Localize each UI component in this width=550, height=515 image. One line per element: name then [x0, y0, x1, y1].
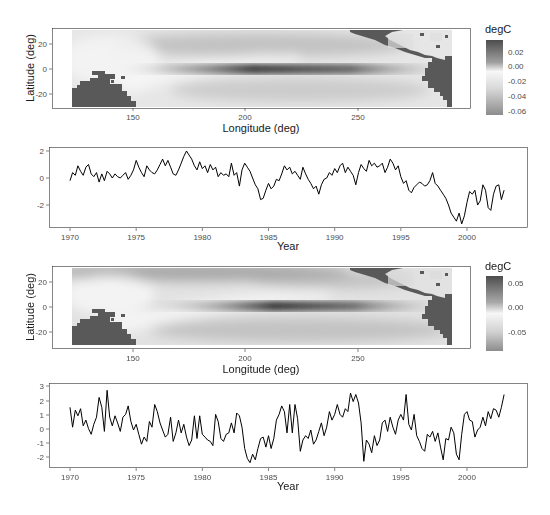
y-tick-label: 0 [43, 65, 48, 74]
y-tick-label: 0 [40, 425, 45, 434]
x-axis-title: Longitude (deg) [222, 122, 299, 134]
x-tick-label: 1990 [326, 473, 344, 482]
x-axis-title: Year [277, 480, 300, 492]
x-tick-label: 1970 [61, 473, 79, 482]
legend-colorbar [486, 40, 503, 115]
y-tick-label: -2 [37, 453, 45, 462]
y-axis-title: Latitude (deg) [24, 34, 36, 102]
y-tick-label: 2 [40, 147, 45, 156]
legend-title: degC [485, 23, 511, 35]
y-axis-title: Latitude (deg) [24, 273, 36, 341]
x-tick-label: 2000 [458, 473, 476, 482]
legend-title: degC [485, 260, 511, 272]
x-tick-label: 1990 [326, 233, 344, 242]
x-tick-label: 200 [238, 113, 252, 122]
figure-canvas: 20 0 -20 Latitude (deg) 150 200 250 Long… [0, 0, 550, 515]
y-tick-label: 1 [40, 411, 45, 420]
x-tick-label: 2000 [458, 233, 476, 242]
x-tick-label: 250 [351, 354, 365, 363]
legend-label: 0.02 [508, 48, 524, 57]
x-tick-label: 1975 [127, 473, 145, 482]
x-tick-label: 1985 [260, 473, 278, 482]
y-tick-label: -20 [35, 90, 47, 99]
x-axis-title: Year [277, 240, 300, 252]
y-axis: 3 2 1 0 -1 -2 [37, 382, 49, 462]
y-tick-label: -20 [35, 328, 47, 337]
y-tick-label: 2 [40, 397, 45, 406]
legend-label: -0.06 [508, 107, 527, 116]
x-tick-label: 1970 [61, 233, 79, 242]
x-axis: 1970197519801985199019952000 [61, 468, 476, 482]
y-tick-label: -1 [37, 439, 45, 448]
x-tick-label: 1995 [392, 233, 410, 242]
x-tick-label: 150 [126, 354, 140, 363]
legend-label: 0.05 [508, 279, 524, 288]
legend-label: -0.02 [508, 77, 527, 86]
legend-label: -0.04 [508, 92, 527, 101]
x-tick-label: 250 [351, 113, 365, 122]
line-panel-1: 2 0 -2 1970197519801985199019952000 Year [37, 147, 528, 252]
legend-label: 0.00 [508, 62, 524, 71]
y-tick-label: 0 [40, 174, 45, 183]
legend-label: -0.05 [508, 328, 527, 337]
heatmap-panel-2: 20 0 -20 Latitude (deg) 150 200 250 Long… [24, 260, 527, 375]
y-axis: 20 0 -20 Latitude (deg) [24, 34, 52, 102]
x-axis-title: Longitude (deg) [222, 363, 299, 375]
y-tick-label: 20 [38, 278, 47, 287]
legend-label: 0.00 [508, 303, 524, 312]
line-panel-2: 3 2 1 0 -1 -2 19701975198019851990199520… [37, 382, 528, 492]
y-tick-label: 0 [43, 303, 48, 312]
y-axis: 20 0 -20 Latitude (deg) [24, 273, 52, 341]
y-tick-label: 3 [40, 382, 45, 391]
x-tick-label: 1975 [127, 233, 145, 242]
x-axis: 150 200 250 Longitude (deg) [126, 349, 365, 375]
x-tick-label: 200 [238, 354, 252, 363]
y-axis: 2 0 -2 [37, 147, 49, 210]
color-legend-2: degC 0.05 0.00 -0.05 [485, 260, 527, 351]
x-tick-label: 1980 [193, 473, 211, 482]
y-tick-label: 20 [38, 40, 47, 49]
x-tick-label: 150 [126, 113, 140, 122]
plot-border [50, 148, 528, 228]
x-tick-label: 1980 [193, 233, 211, 242]
heatmap-panel-1: 20 0 -20 Latitude (deg) 150 200 250 Long… [24, 23, 527, 134]
x-tick-label: 1985 [260, 233, 278, 242]
legend-colorbar [486, 276, 503, 351]
y-tick-label: -2 [37, 201, 45, 210]
color-legend-1: degC 0.02 0.00 -0.02 -0.04 -0.06 [485, 23, 527, 116]
heatmap-field [60, 30, 452, 107]
x-tick-label: 1995 [392, 473, 410, 482]
x-axis: 1970197519801985199019952000 [61, 228, 476, 242]
x-axis: 150 200 250 Longitude (deg) [126, 108, 365, 134]
heatmap-field [50, 263, 452, 345]
